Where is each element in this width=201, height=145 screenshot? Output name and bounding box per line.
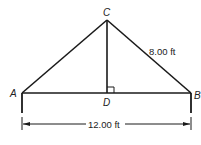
label-d: D: [103, 97, 110, 108]
label-a: A: [9, 88, 17, 99]
side-length-label: 8.00 ft: [149, 46, 176, 57]
base-length-label: 12.00 ft: [88, 119, 120, 130]
label-b: B: [194, 90, 201, 101]
label-c: C: [103, 7, 111, 18]
right-angle-marker: [107, 87, 114, 93]
arrow-left-icon: [23, 122, 30, 126]
triangle-diagram: C A B D 8.00 ft 12.00 ft: [0, 0, 201, 145]
side-ac: [22, 20, 107, 93]
arrow-right-icon: [183, 122, 190, 126]
